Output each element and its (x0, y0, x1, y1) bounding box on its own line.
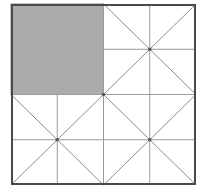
geometric-figure (0, 0, 205, 195)
figure-canvas (0, 0, 205, 195)
bottom-right-x-center (148, 138, 152, 142)
figure-center-point (102, 93, 106, 97)
top-right-x-center (148, 47, 152, 51)
shaded-quadrant-top-left (11, 4, 104, 95)
bottom-left-x-center (55, 138, 59, 142)
quadrant-fills (11, 4, 104, 95)
